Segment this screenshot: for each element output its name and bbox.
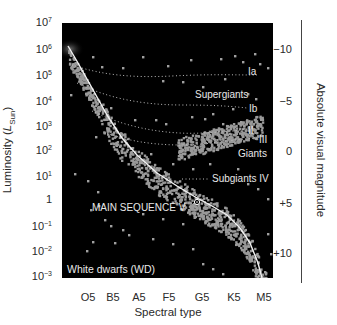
y-tick-label: 10−2 bbox=[32, 246, 52, 257]
label-ii: II bbox=[248, 125, 254, 136]
x-tick-label: A5 bbox=[132, 291, 145, 303]
y-tick-label: 10−3 bbox=[32, 271, 52, 282]
plot-area: Ia Supergiants Ib II III Giants Subgiant… bbox=[62, 23, 273, 278]
label-white-dwarfs: White dwarfs (WD) bbox=[67, 263, 155, 275]
right-tick-label: +10 bbox=[262, 247, 292, 259]
x-tick-label: G5 bbox=[195, 291, 210, 303]
y-tick-label: 106 bbox=[36, 44, 52, 55]
label-ib: Ib bbox=[249, 103, 257, 114]
right-tick-label: −10 bbox=[262, 43, 292, 55]
right-tick-label: 0 bbox=[262, 145, 292, 157]
right-tick-label: +5 bbox=[262, 197, 292, 209]
y-tick-label: 1 bbox=[46, 194, 52, 205]
y-tick-label: 103 bbox=[36, 121, 52, 132]
label-ia: Ia bbox=[248, 66, 256, 77]
x-tick-label: K5 bbox=[227, 291, 240, 303]
x-tick-label: F5 bbox=[163, 291, 176, 303]
x-tick-label: B5 bbox=[106, 291, 119, 303]
x-axis-label: Spectral type bbox=[134, 306, 201, 318]
right-axis-line bbox=[301, 20, 302, 283]
y-tick-label: 101 bbox=[36, 171, 52, 182]
label-supergiants: Supergiants bbox=[195, 89, 248, 100]
x-tick-label: M5 bbox=[256, 291, 271, 303]
y-tick-label: 105 bbox=[36, 70, 52, 81]
y-axis-label-text: Luminosity (LSun) bbox=[1, 107, 13, 193]
label-subgiants: Subgiants IV bbox=[212, 173, 269, 184]
label-main-sequence: MAIN SEQUENCE V bbox=[92, 202, 185, 213]
y-tick-label: 107 bbox=[36, 17, 52, 28]
label-iii: III bbox=[259, 134, 267, 145]
y-tick-label: 104 bbox=[36, 96, 52, 107]
right-tick-label: −5 bbox=[262, 95, 292, 107]
x-tick-label: O5 bbox=[81, 291, 96, 303]
y-axis-label: Luminosity (LSun) bbox=[1, 107, 16, 193]
y-tick-label: 10−1 bbox=[32, 221, 52, 232]
y-tick-label: 102 bbox=[36, 145, 52, 156]
right-axis-label: Absolute visual magnitude bbox=[315, 83, 327, 217]
